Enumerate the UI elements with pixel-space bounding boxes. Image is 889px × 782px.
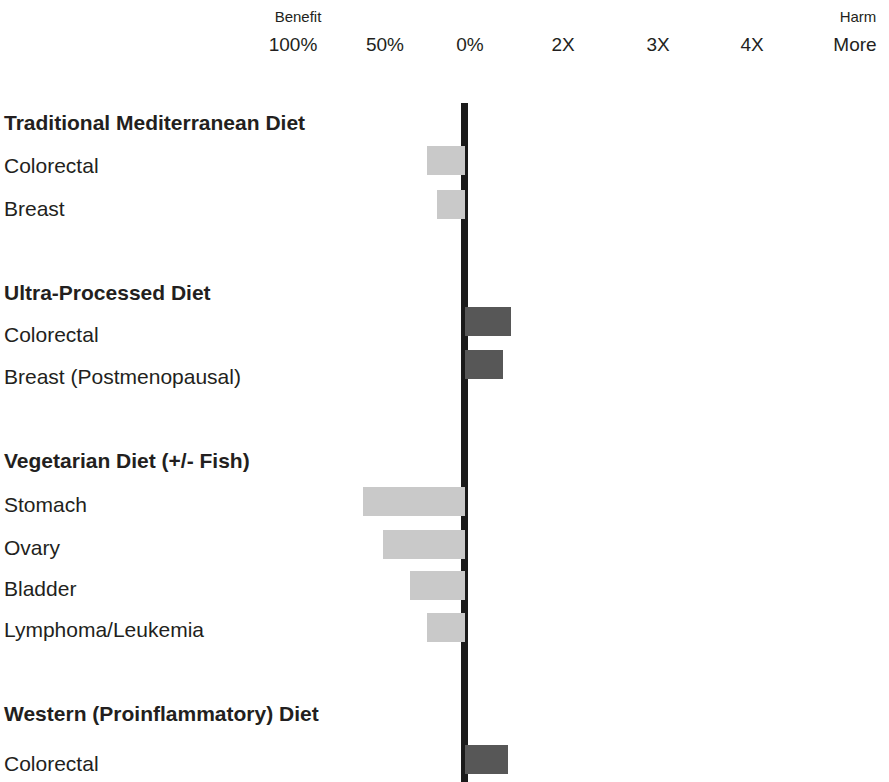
bar-vegetarian-diet-fish-lymphoma-leukemia xyxy=(427,613,465,642)
group-heading: Traditional Mediterranean Diet xyxy=(4,112,305,133)
bar-western-proinflammatory-diet-colorectal xyxy=(465,745,508,774)
row-label: Stomach xyxy=(4,494,87,515)
bar-vegetarian-diet-fish-ovary xyxy=(383,530,465,559)
group-heading: Western (Proinflammatory) Diet xyxy=(4,703,319,724)
row-label: Colorectal xyxy=(4,324,99,345)
bar-ultra-processed-diet-breast-postmenopausal xyxy=(465,350,503,379)
row-label: Colorectal xyxy=(4,753,99,774)
group-heading: Vegetarian Diet (+/- Fish) xyxy=(4,450,250,471)
group-heading: Ultra-Processed Diet xyxy=(4,282,211,303)
bar-traditional-mediterranean-diet-breast xyxy=(437,190,465,219)
row-label: Bladder xyxy=(4,578,76,599)
row-label: Breast (Postmenopausal) xyxy=(4,366,241,387)
bar-ultra-processed-diet-colorectal xyxy=(465,307,511,336)
bar-vegetarian-diet-fish-stomach xyxy=(363,487,465,516)
row-label: Lymphoma/Leukemia xyxy=(4,619,204,640)
bar-traditional-mediterranean-diet-colorectal xyxy=(427,146,465,175)
row-label: Ovary xyxy=(4,537,60,558)
diet-cancer-risk-chart: Benefit Harm 100%50%0%2X3X4XMore Traditi… xyxy=(0,0,889,782)
row-label: Colorectal xyxy=(4,155,99,176)
row-label: Breast xyxy=(4,198,65,219)
bar-vegetarian-diet-fish-bladder xyxy=(410,571,465,600)
